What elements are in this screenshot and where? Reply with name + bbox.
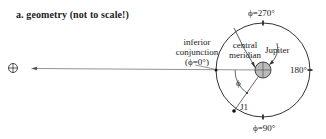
earth-symbol-icon bbox=[9, 64, 18, 73]
phi-label: ϕ bbox=[236, 78, 241, 88]
phi-90-label: ϕ=90° bbox=[253, 123, 275, 133]
deg-180-label: 180° bbox=[290, 65, 307, 75]
j1-moon bbox=[232, 109, 236, 113]
inferior-conjunction-label: inferior conjunction (ϕ=0°) bbox=[170, 37, 224, 67]
line-of-sight bbox=[34, 69, 262, 71]
jupiter-label: Jupiter bbox=[265, 45, 290, 55]
j1-label: J1 bbox=[240, 102, 248, 112]
geometry-diagram bbox=[0, 0, 326, 139]
jupiter-disc bbox=[255, 62, 271, 78]
phi-270-label: ϕ=270° bbox=[248, 8, 275, 18]
central-meridian-label: central meridian bbox=[225, 40, 265, 60]
arrowhead bbox=[31, 67, 37, 70]
